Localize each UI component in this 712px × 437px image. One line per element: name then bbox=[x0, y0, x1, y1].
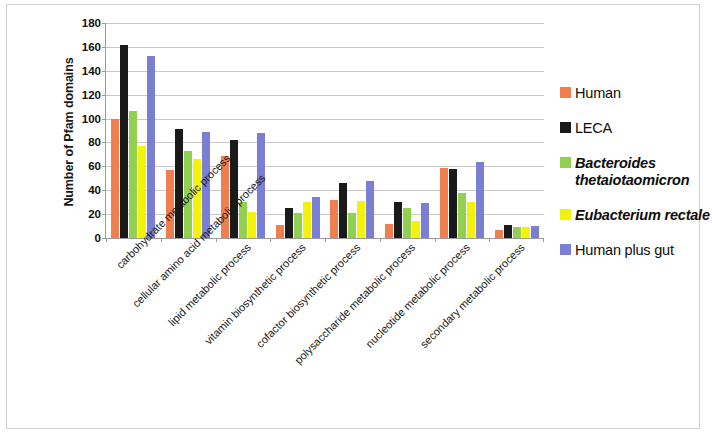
bar bbox=[348, 213, 356, 238]
y-axis-tick-label: 0 bbox=[95, 232, 101, 244]
bar bbox=[330, 200, 338, 238]
bar-group bbox=[435, 23, 490, 238]
legend-item-label: LECA bbox=[575, 120, 612, 136]
legend-color-swatch-icon bbox=[560, 87, 571, 98]
chart-legend: HumanLECABacteroides thetaiotaomicronEub… bbox=[560, 85, 712, 277]
y-axis-tick-label: 160 bbox=[82, 41, 101, 53]
y-axis-tick-label: 100 bbox=[82, 113, 101, 125]
bar bbox=[129, 111, 137, 238]
x-axis-tick-mark bbox=[270, 238, 271, 242]
legend-item[interactable]: Bacteroides thetaiotaomicron bbox=[560, 155, 712, 187]
y-axis-tick-label: 60 bbox=[88, 160, 101, 172]
legend-color-swatch-icon bbox=[560, 209, 571, 220]
legend-item-label: Bacteroides thetaiotaomicron bbox=[575, 155, 712, 187]
x-axis-tick-mark bbox=[435, 238, 436, 242]
bar bbox=[449, 169, 457, 238]
bar bbox=[276, 225, 284, 238]
bar bbox=[357, 201, 365, 238]
x-axis-tick-mark bbox=[106, 238, 107, 242]
x-axis-tick-mark bbox=[216, 238, 217, 242]
bar bbox=[531, 226, 539, 238]
bar bbox=[476, 162, 484, 238]
bar bbox=[120, 45, 128, 239]
bar-group bbox=[489, 23, 544, 238]
legend-color-swatch-icon bbox=[560, 122, 571, 133]
bar bbox=[458, 193, 466, 238]
legend-item[interactable]: Human bbox=[560, 85, 712, 101]
x-axis-tick-mark bbox=[543, 238, 544, 242]
legend-item[interactable]: Human plus gut bbox=[560, 242, 712, 258]
bar bbox=[421, 203, 429, 238]
bar-group bbox=[325, 23, 380, 238]
bar bbox=[138, 146, 146, 238]
bar bbox=[339, 183, 347, 238]
bar bbox=[366, 181, 374, 238]
bar bbox=[285, 208, 293, 238]
x-axis-tick-mark bbox=[380, 238, 381, 242]
legend-item-label: Human plus gut bbox=[575, 242, 674, 258]
bar-group bbox=[380, 23, 435, 238]
bar bbox=[303, 202, 311, 238]
y-axis-tick-label: 40 bbox=[88, 184, 101, 196]
bar bbox=[440, 168, 448, 238]
bar-group bbox=[106, 23, 161, 238]
bar bbox=[513, 227, 521, 238]
bar bbox=[175, 129, 183, 238]
bar bbox=[248, 212, 256, 238]
legend-item[interactable]: LECA bbox=[560, 120, 712, 136]
bar bbox=[111, 119, 119, 238]
x-axis-label: lipid metabolic process bbox=[146, 241, 253, 348]
bar bbox=[294, 213, 302, 238]
bar bbox=[467, 202, 475, 238]
bar bbox=[230, 140, 238, 238]
chart-frame: Number of Pfam domains 02040608010012014… bbox=[6, 4, 700, 429]
x-axis-label: carbohydrate metabolic process bbox=[114, 241, 144, 271]
bar bbox=[522, 227, 530, 238]
bar bbox=[312, 197, 320, 238]
y-axis-tick-label: 180 bbox=[82, 17, 101, 29]
bar-group bbox=[270, 23, 325, 238]
bar bbox=[385, 224, 393, 238]
x-axis-tick-mark bbox=[489, 238, 490, 242]
bar bbox=[403, 208, 411, 238]
y-axis-tick-label: 120 bbox=[82, 89, 101, 101]
x-axis-tick-mark bbox=[325, 238, 326, 242]
legend-item[interactable]: Eubacterium rectale bbox=[560, 207, 712, 223]
legend-item-label: Human bbox=[575, 85, 621, 101]
y-axis-title: Number of Pfam domains bbox=[62, 17, 76, 247]
y-axis-tick-label: 140 bbox=[82, 65, 101, 77]
bar bbox=[504, 225, 512, 238]
bar bbox=[147, 56, 155, 238]
bar bbox=[394, 202, 402, 238]
legend-color-swatch-icon bbox=[560, 244, 571, 255]
x-axis-tick-mark bbox=[161, 238, 162, 242]
y-axis-tick-label: 20 bbox=[88, 208, 101, 220]
legend-color-swatch-icon bbox=[560, 157, 571, 168]
legend-item-label: Eubacterium rectale bbox=[575, 207, 710, 223]
bar bbox=[495, 230, 503, 238]
bar bbox=[412, 221, 420, 238]
y-axis-tick-label: 80 bbox=[88, 136, 101, 148]
